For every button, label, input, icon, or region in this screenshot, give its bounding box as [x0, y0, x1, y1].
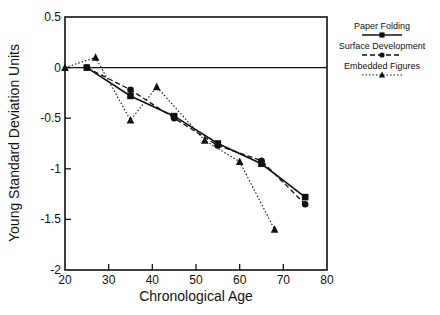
legend-label: Paper Folding	[354, 21, 410, 31]
triangle-marker	[92, 53, 100, 61]
x-tick-label: 50	[189, 273, 203, 287]
y-tick-label: -1	[50, 162, 61, 176]
x-axis-ticks: 20304050607080	[58, 264, 334, 287]
legend-label: Surface Development	[339, 41, 426, 51]
x-tick-label: 80	[320, 273, 334, 287]
series-paper-folding	[84, 64, 309, 200]
circle-marker	[302, 201, 309, 208]
y-tick-label: -1.5	[40, 212, 61, 226]
legend-item: Paper Folding	[354, 21, 410, 38]
y-axis-ticks: 0.50-0.5-1-1.5-2	[40, 10, 71, 277]
square-marker	[302, 194, 309, 201]
y-tick-label: -2	[50, 263, 61, 277]
x-tick-label: 30	[102, 273, 116, 287]
plot-frame	[65, 17, 327, 270]
series-surface-development	[84, 64, 309, 207]
circle-marker	[258, 157, 265, 164]
triangle-marker	[236, 157, 244, 165]
legend: Paper FoldingSurface DevelopmentEmbedded…	[339, 21, 426, 78]
legend-item: Surface Development	[339, 41, 426, 58]
x-tick-label: 70	[277, 273, 291, 287]
circle-marker	[127, 87, 134, 94]
legend-label: Embedded Figures	[344, 61, 421, 71]
x-tick-label: 40	[146, 273, 160, 287]
x-axis-title: Chronological Age	[139, 288, 253, 304]
y-tick-label: -0.5	[40, 111, 61, 125]
x-tick-label: 60	[233, 273, 247, 287]
series-embedded-figures	[61, 53, 278, 233]
line-chart: 20304050607080 0.50-0.5-1-1.5-2 Chronolo…	[0, 0, 440, 315]
circle-marker	[84, 64, 91, 71]
circle-marker	[379, 52, 384, 57]
plot-border	[65, 17, 327, 270]
series-line	[87, 68, 305, 198]
y-tick-label: 0	[54, 61, 61, 75]
circle-marker	[215, 142, 222, 149]
series-layer	[61, 53, 308, 233]
series-line	[65, 57, 275, 229]
y-axis-title: Young Standard Deviation Units	[6, 44, 22, 242]
square-marker	[127, 93, 134, 100]
legend-item: Embedded Figures	[344, 61, 421, 78]
square-marker	[379, 32, 384, 37]
triangle-marker	[127, 116, 135, 124]
triangle-marker	[153, 83, 161, 91]
triangle-marker	[271, 225, 279, 233]
y-tick-label: 0.5	[44, 10, 61, 24]
circle-marker	[171, 115, 178, 122]
